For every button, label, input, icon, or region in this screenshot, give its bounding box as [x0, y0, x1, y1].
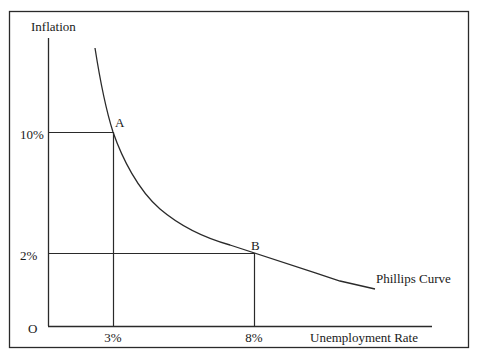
origin-label: O — [28, 321, 37, 336]
point-a-label: A — [115, 115, 125, 130]
phillips-curve-diagram: Inflation Unemployment Rate O 10% 2% 3% … — [0, 0, 478, 357]
frame-border — [10, 12, 469, 348]
curve-label: Phillips Curve — [376, 271, 451, 286]
y-axis-label: Inflation — [31, 19, 76, 34]
x-axis-label: Unemployment Rate — [310, 330, 418, 345]
x-tick-3-percent: 3% — [104, 330, 122, 345]
point-b-label: B — [251, 238, 260, 253]
phillips-curve-line — [95, 48, 375, 289]
x-tick-8-percent: 8% — [245, 330, 263, 345]
y-tick-10-percent: 10% — [20, 127, 44, 142]
y-tick-2-percent: 2% — [20, 248, 38, 263]
